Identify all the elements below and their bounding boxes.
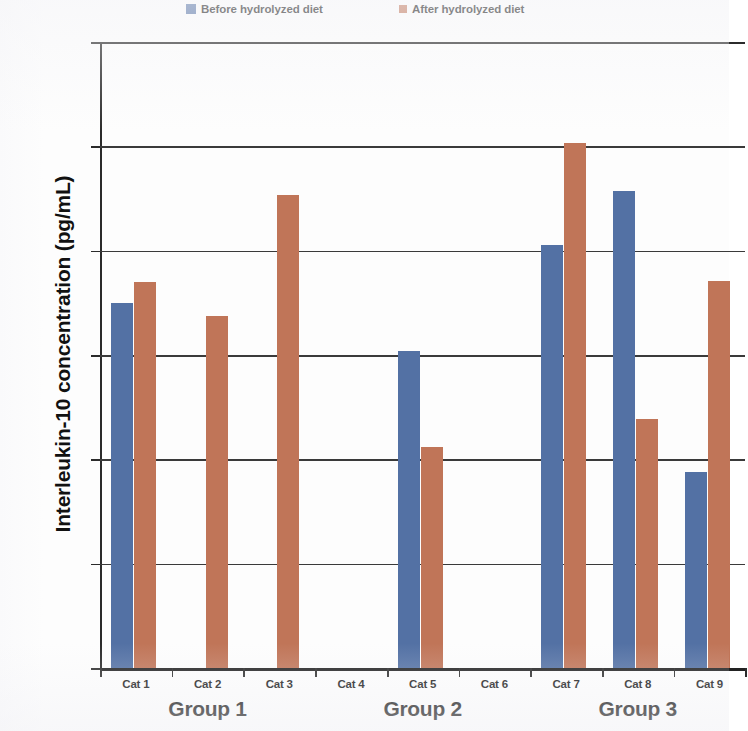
x-tick-6 [530, 668, 532, 677]
bar-cat-1-before [111, 303, 133, 668]
bar-cat-5-before [398, 351, 420, 668]
bar-cat-2-after [206, 316, 228, 668]
gridline-400 [100, 251, 745, 253]
bar-cat-3-after [277, 195, 299, 668]
y-tick-mark-100 [91, 564, 100, 566]
x-tick-4 [387, 668, 389, 677]
legend-swatch-after-icon [399, 5, 407, 13]
x-tick-3 [315, 668, 317, 677]
category-label-cat-2: Cat 2 [178, 678, 238, 690]
bar-cat-8-after [636, 419, 658, 668]
x-tick-2 [243, 668, 245, 677]
group-label-group-2: Group 2 [313, 697, 533, 721]
y-tick-mark-300 [91, 355, 100, 357]
legend-swatch-before-icon [186, 4, 196, 14]
x-tick-0 [100, 668, 102, 677]
chart-legend: Before hydrolyzed diet After hydrolyzed … [0, 0, 729, 24]
y-tick-mark-500 [91, 146, 100, 148]
bar-cat-5-after [421, 447, 443, 668]
bar-cat-1-after [134, 282, 156, 668]
x-tick-1 [172, 668, 174, 677]
category-label-cat-3: Cat 3 [249, 678, 309, 690]
category-label-cat-5: Cat 5 [393, 678, 453, 690]
y-tick-mark-600 [91, 42, 100, 44]
category-label-cat-4: Cat 4 [321, 678, 381, 690]
plot-area [100, 42, 745, 668]
legend-entry-before: Before hydrolyzed diet [186, 3, 323, 15]
bar-cat-7-after [564, 143, 586, 668]
category-label-cat-1: Cat 1 [106, 678, 166, 690]
group-label-group-3: Group 3 [528, 697, 748, 721]
y-tick-mark-200 [91, 459, 100, 461]
bar-cat-7-before [541, 245, 563, 668]
gridline-500 [100, 146, 745, 148]
plot-frame-top [100, 42, 745, 44]
y-tick-mark-400 [91, 251, 100, 253]
x-axis-line [100, 668, 745, 671]
bar-cat-9-after [708, 281, 730, 668]
legend-label-after: After hydrolyzed diet [412, 3, 524, 15]
category-label-cat-7: Cat 7 [536, 678, 596, 690]
x-tick-5 [459, 668, 461, 677]
legend-entry-after: After hydrolyzed diet [399, 3, 524, 15]
y-axis-title: Interleukin-10 concentration (pg/mL) [51, 44, 75, 664]
bar-cat-8-before [613, 191, 635, 668]
gridline-300 [100, 355, 745, 357]
x-tick-7 [602, 668, 604, 677]
x-tick-9 [745, 668, 747, 677]
category-label-cat-8: Cat 8 [608, 678, 668, 690]
x-tick-8 [674, 668, 676, 677]
legend-label-before: Before hydrolyzed diet [201, 3, 323, 15]
y-tick-mark-0 [91, 668, 100, 670]
bar-cat-9-before [685, 472, 707, 668]
category-label-cat-9: Cat 9 [679, 678, 739, 690]
category-label-cat-6: Cat 6 [464, 678, 524, 690]
group-label-group-1: Group 1 [98, 697, 318, 721]
